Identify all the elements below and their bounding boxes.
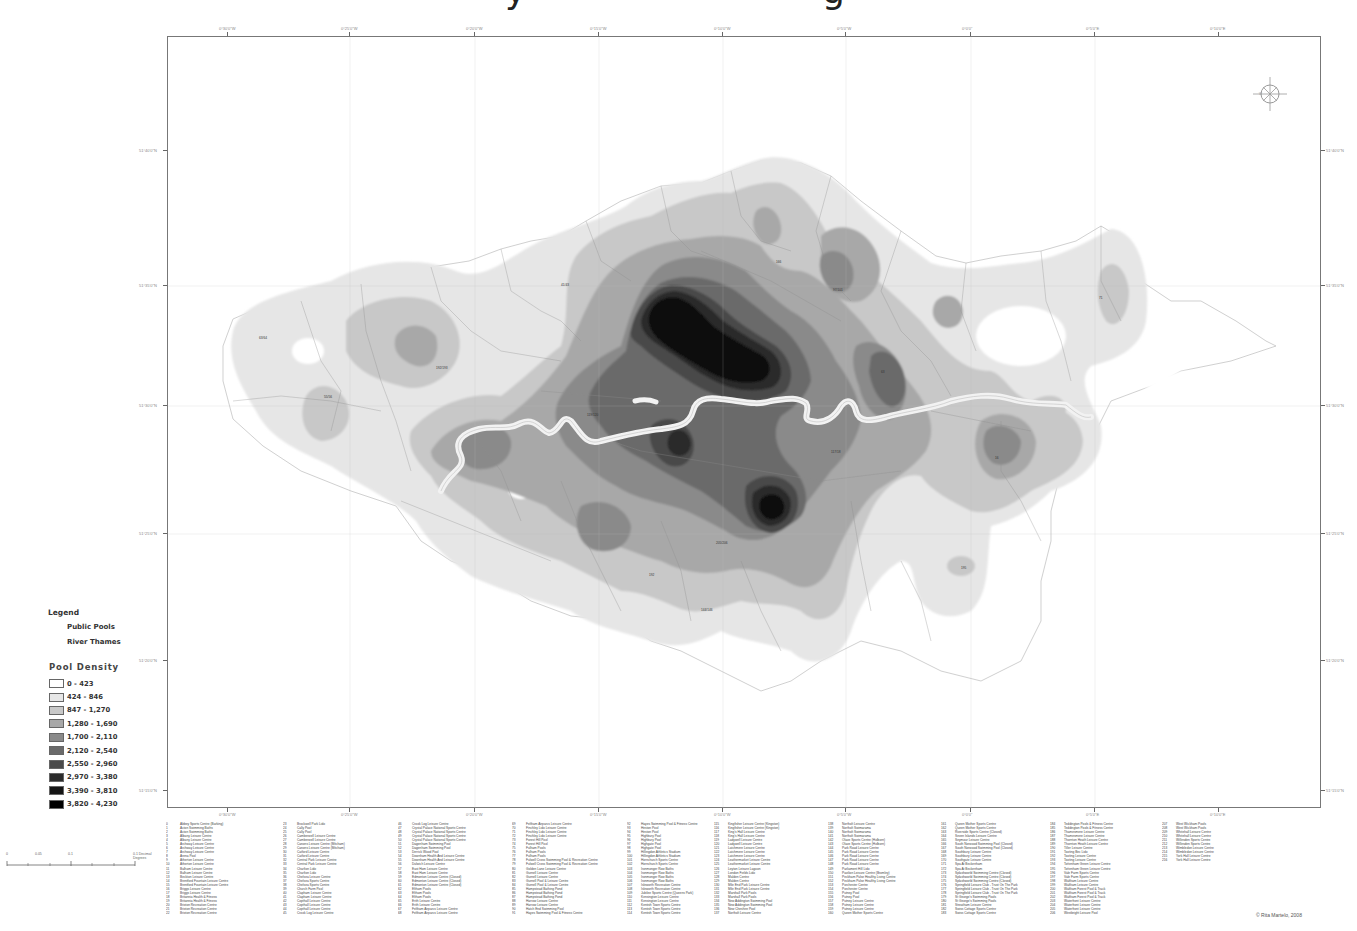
pool-index-name: Queen Mother Sports Centre — [842, 911, 883, 915]
pool-index-entry: 91Hayes Swimming Pool & Fitness Centre — [512, 911, 607, 915]
density-label: 2,120 - 2,540 — [67, 747, 118, 755]
legend-title: Legend — [48, 608, 158, 617]
pool-index-column: 115Kingfisher Leisure Centre (Kingston)1… — [714, 822, 809, 915]
pool-index-number: 216 — [1162, 858, 1176, 862]
density-swatch — [49, 706, 64, 715]
pool-index-number: 183 — [941, 911, 955, 915]
bottom-tick-label: 0°10'0"E — [1210, 812, 1225, 817]
title-fragment-glyph: g — [822, 0, 845, 11]
right-tick-label: 51°40'0"N — [1326, 148, 1344, 153]
pool-index-number: 22 — [166, 911, 180, 915]
pool-index-column: 46Crook Log Leisure Centre47Crystal Pala… — [398, 822, 493, 915]
scale-label-1: 0.05 — [35, 852, 42, 856]
pool-index-number: 114 — [627, 911, 641, 915]
svg-text:41/43: 41/43 — [561, 283, 569, 287]
left-tick — [163, 150, 167, 151]
density-swatch — [49, 773, 64, 782]
svg-text:192: 192 — [649, 573, 655, 577]
map-title-cropped: yg — [0, 0, 1357, 14]
legend-item-label: River Thames — [67, 638, 121, 646]
bottom-tick-label: 0°15'0"W — [590, 812, 606, 817]
bottom-tick-label: 0°0'0" — [962, 812, 972, 817]
left-tick — [163, 790, 167, 791]
bottom-tick-label: 0°25'0"W — [341, 812, 357, 817]
density-legend-title: Pool Density — [49, 662, 119, 672]
density-class: 0 - 423 — [49, 677, 118, 690]
density-swatch — [49, 746, 64, 755]
svg-text:71: 71 — [1099, 296, 1103, 300]
title-fragment-glyph: y — [505, 0, 526, 11]
density-swatch — [49, 693, 64, 702]
top-tick-label: 0°10'0"E — [1210, 26, 1225, 31]
scale-bar: 0 0.05 0.1 0.1 Decimal Degrees — [5, 852, 165, 872]
left-tick-label: 51°20'0"N — [139, 658, 157, 663]
scale-label-units: 0.1 Decimal Degrees — [133, 852, 165, 860]
density-class: 2,970 - 3,380 — [49, 771, 118, 784]
bottom-tick-label: 0°20'0"W — [466, 812, 482, 817]
left-tick — [163, 405, 167, 406]
density-label: 0 - 423 — [67, 680, 93, 688]
top-tick — [349, 32, 350, 36]
density-label: 1,280 - 1,690 — [67, 720, 118, 728]
pool-index-list: 0Abbey Sports Centre (Barking)1Acton Swi… — [166, 822, 1226, 928]
pool-index-name: Feltham Airparcs Leisure Centre — [412, 911, 458, 915]
right-tick-label: 51°25'0"N — [1326, 531, 1344, 536]
left-tick — [163, 285, 167, 286]
right-tick — [1321, 405, 1325, 406]
top-tick-label: 0°0'0" — [962, 26, 972, 31]
density-label: 847 - 1,270 — [67, 706, 110, 714]
density-swatch — [49, 679, 64, 688]
svg-text:195: 195 — [961, 566, 967, 570]
svg-text:W: W — [1259, 92, 1262, 96]
density-class: 3,820 - 4,230 — [49, 798, 118, 811]
svg-text:119/120: 119/120 — [587, 413, 599, 417]
bottom-tick-label: 0°5'0"E — [1086, 812, 1099, 817]
pool-index-entry: 45Crook Log Leisure Centre — [283, 911, 378, 915]
density-label: 3,390 - 3,810 — [67, 787, 118, 795]
svg-text:205/206: 205/206 — [716, 541, 728, 545]
bottom-tick-label: 0°5'0"W — [837, 812, 851, 817]
density-label: 2,550 - 2,960 — [67, 760, 118, 768]
right-tick-label: 51°30'0"N — [1326, 403, 1344, 408]
pool-index-entry: 22Brixton Recreation Centre — [166, 911, 261, 915]
pool-index-entry: 137Northolt Leisure Centre — [714, 911, 809, 915]
map-frame[interactable]: 41/4316697/101 637116 195205/206192 192/… — [167, 36, 1321, 808]
pool-index-column: 184Teddington Pools & Fitness Centre185T… — [1050, 822, 1145, 915]
legend: Legend Public Pools River Thames — [48, 608, 158, 653]
top-tick — [1218, 32, 1219, 36]
right-tick-label: 51°20'0"N — [1326, 658, 1344, 663]
pool-point-icon — [50, 626, 58, 629]
pool-index-number: 91 — [512, 911, 526, 915]
bottom-tick-label: 0°10'0"W — [714, 812, 730, 817]
legend-item-label: Public Pools — [67, 623, 115, 631]
svg-text:117/18: 117/18 — [831, 450, 841, 454]
pool-index-entry: 160Queen Mother Sports Centre — [828, 911, 923, 915]
top-tick-label: 0°25'0"W — [341, 26, 357, 31]
density-class: 3,390 - 3,810 — [49, 784, 118, 797]
pool-index-name: Northolt Leisure Centre — [728, 911, 761, 915]
left-tick-label: 51°30'0"N — [139, 403, 157, 408]
top-tick-label: 0°5'0"W — [837, 26, 851, 31]
pool-index-entry: 114Kentish Town Sports Centre — [627, 911, 722, 915]
right-tick-label: 51°15'0"N — [1326, 788, 1344, 793]
svg-text:16: 16 — [995, 456, 999, 460]
scale-label-0: 0 — [6, 852, 8, 856]
legend-item-river-thames: River Thames — [48, 638, 158, 647]
bottom-tick-label: 0°30'0"W — [219, 812, 235, 817]
pool-index-name: Crook Log Leisure Centre — [297, 911, 334, 915]
top-tick-label: 0°5'0"E — [1086, 26, 1099, 31]
pool-index-entry: 206Westbright Leisure Pool — [1050, 911, 1145, 915]
pool-index-column: 161Queen Mother Sports Centre162Queen Mo… — [941, 822, 1036, 915]
right-tick — [1321, 533, 1325, 534]
density-class: 2,120 - 2,540 — [49, 744, 118, 757]
svg-text:97/101: 97/101 — [833, 288, 843, 292]
legend-item-public-pools: Public Pools — [48, 623, 158, 632]
density-map[interactable]: 41/4316697/101 637116 195205/206192 192/… — [168, 37, 1322, 809]
pool-index-name: Hayes Swimming Pool & Fitness Centre — [526, 911, 583, 915]
svg-text:63/64: 63/64 — [259, 336, 267, 340]
density-label: 1,700 - 2,110 — [67, 733, 118, 741]
pool-index-column: 0Abbey Sports Centre (Barking)1Acton Swi… — [166, 822, 261, 915]
density-class: 424 - 846 — [49, 690, 118, 703]
pool-index-number: 206 — [1050, 911, 1064, 915]
pool-index-column: 138Northolt Leisure Centre139Northolt Sw… — [828, 822, 923, 915]
